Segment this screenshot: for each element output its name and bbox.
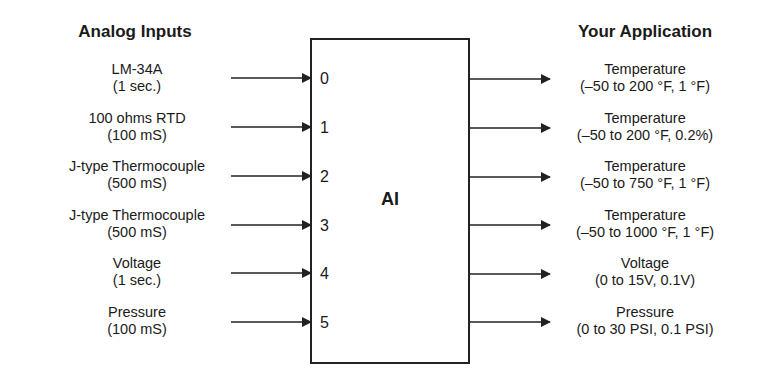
port-4: 4 [320,265,329,283]
port-1: 1 [320,119,329,137]
block-title: AI [312,189,468,210]
output-label-4: Voltage(0 to 15V, 0.1V) [545,255,745,289]
output-label-0: Temperature(–50 to 200 °F, 1 °F) [545,61,745,95]
output-label-1: Temperature(–50 to 200 °F, 0.2%) [545,110,745,144]
input-label-0: LM-34A(1 sec.) [37,61,237,95]
port-2: 2 [320,168,329,186]
port-5: 5 [320,314,329,332]
input-label-2: J-type Thermocouple(500 mS) [37,158,237,192]
input-label-1: 100 ohms RTD(100 mS) [37,110,237,144]
input-label-3: J-type Thermocouple(500 mS) [37,207,237,241]
input-label-4: Voltage(1 sec.) [37,255,237,289]
port-0: 0 [320,70,329,88]
output-label-2: Temperature(–50 to 750 °F, 1 °F) [545,158,745,192]
input-label-5: Pressure(100 mS) [37,304,237,338]
output-label-3: Temperature(–50 to 1000 °F, 1 °F) [545,207,745,241]
port-3: 3 [320,217,329,235]
ai-block: AI 0 1 2 3 4 5 [310,38,470,364]
output-label-5: Pressure(0 to 30 PSI, 0.1 PSI) [545,304,745,338]
